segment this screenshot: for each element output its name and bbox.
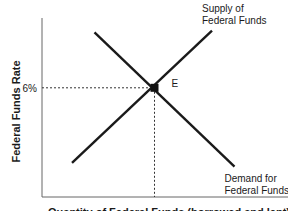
demand-curve-label: Demand for: [225, 173, 278, 184]
supply-curve-label: Supply of: [202, 3, 244, 14]
equilibrium-point: [151, 84, 159, 92]
y-axis-label: Federal Funds Rate: [10, 60, 22, 162]
federal-funds-market-chart: E 6% Federal Funds Rate Quantity of Fede…: [0, 0, 288, 211]
supply-curve-label: Federal Funds: [202, 15, 266, 26]
supply-curve: [72, 31, 212, 163]
demand-curve-label: Federal Funds: [225, 185, 289, 196]
demand-curve: [95, 32, 235, 166]
equilibrium-label: E: [172, 78, 179, 89]
x-axis-label: Quantity of Federal Funds (borrowed and …: [48, 206, 288, 211]
rate-tick-label: 6%: [23, 83, 38, 94]
